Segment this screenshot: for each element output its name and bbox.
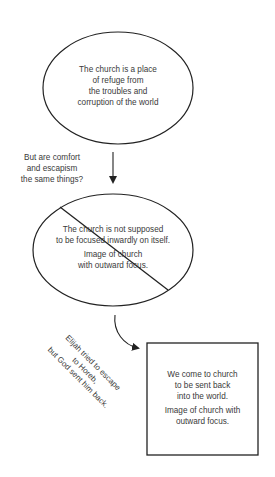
node1-line: the troubles and (58, 86, 178, 97)
node1-text: The church is a place of refuge from the… (58, 64, 178, 108)
side-question: But are comfort and escapism the same th… (0, 152, 104, 185)
node1-line: The church is a place (58, 64, 178, 75)
node3-statement-line: into the world. (147, 391, 258, 402)
node2-caption-line: Image of church (43, 249, 183, 260)
side-question-line: and escapism (0, 163, 104, 174)
node2-caption-line: with outward focus. (43, 260, 183, 271)
side-question-line: But are comfort (0, 152, 104, 163)
side-question-line: the same things? (0, 174, 104, 185)
node3-caption-line: outward focus. (147, 416, 258, 427)
node2-text: The church is not supposed to be focused… (43, 224, 183, 271)
node1-line: of refuge from (58, 75, 178, 86)
node2-statement-line: The church is not supposed (43, 224, 183, 235)
node3-statement-line: to be sent back (147, 380, 258, 391)
node3-statement-line: We come to church (147, 369, 258, 380)
node3-caption-line: Image of church with (147, 405, 258, 416)
curved-arrow (115, 315, 138, 348)
node3-text: We come to church to be sent back into t… (147, 369, 258, 427)
node2-statement-line: to be focused inwardly on itself. (43, 235, 183, 246)
node1-line: corruption of the world (58, 97, 178, 108)
